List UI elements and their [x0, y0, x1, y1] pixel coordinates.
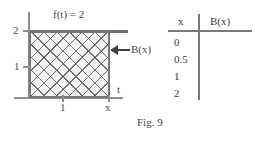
callout-arrow-line	[113, 49, 130, 51]
plot-area: 2 1 1 x t f(t) = 2 B(x)	[0, 0, 140, 120]
x-axis-label: t	[117, 84, 120, 95]
table-row: 2	[174, 87, 180, 99]
table-header-rule	[168, 30, 252, 32]
y-tick-label-2: 2	[13, 25, 19, 36]
figure-9: 2 1 1 x t f(t) = 2 B(x) x B(x) 0 0.5 1 2…	[0, 0, 255, 144]
shaded-region	[29, 31, 110, 98]
y-tick-label-1: 1	[14, 61, 20, 72]
table-row: 1	[174, 70, 180, 82]
table-header-bx: B(x)	[210, 15, 230, 27]
table-row: 0.5	[174, 53, 188, 65]
region-callout-label: B(x)	[131, 44, 151, 55]
table-row: 0	[174, 36, 180, 48]
table-header-x: x	[178, 15, 184, 27]
value-table: x B(x) 0 0.5 1 2	[168, 12, 252, 104]
y-tick-2-mark	[23, 30, 30, 32]
x-tick-label-1: 1	[60, 102, 66, 113]
figure-caption: Fig. 9	[137, 116, 163, 128]
y-tick-1-mark	[23, 66, 30, 68]
function-label: f(t) = 2	[53, 9, 84, 20]
x-tick-label-x: x	[105, 102, 111, 113]
table-column-divider	[198, 14, 200, 100]
